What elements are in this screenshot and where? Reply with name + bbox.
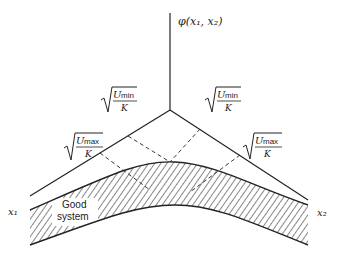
svg-text:K: K [120,103,129,113]
svg-text:K: K [263,149,272,159]
umin-left-label: U min K [101,87,137,113]
svg-text:K: K [84,149,93,159]
svg-text:max: max [263,137,278,146]
x2-axis-label: x₂ [317,207,327,218]
region-label-line1: Good [62,199,86,210]
phi-axis-label: φ(x₁, x₂) [178,15,223,28]
svg-text:max: max [84,137,99,146]
svg-text:min: min [121,91,134,100]
svg-text:K: K [224,103,233,113]
diagram-canvas: φ(x₁, x₂) x₁ x₂ U min K U min K U max K … [0,0,341,255]
umax-left-label: U max K [64,133,103,160]
region-label-line2: system [57,211,89,222]
x1-axis-label: x₁ [8,206,18,217]
umin-right-label: U min K [205,87,241,113]
umax-right-label: U max K [243,133,282,159]
svg-text:min: min [225,91,238,100]
good-system-diagram: φ(x₁, x₂) x₁ x₂ U min K U min K U max K … [0,0,341,255]
